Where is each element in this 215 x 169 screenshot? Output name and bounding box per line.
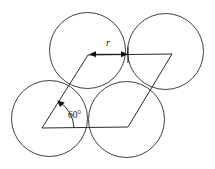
top-left-circle (50, 13, 126, 89)
angle-annotation: 60° (57, 101, 81, 129)
angle-arrowhead (57, 101, 65, 108)
figure-container: r 60° (0, 0, 215, 169)
radius-arrow-left (89, 51, 96, 57)
top-right-circle (128, 14, 204, 90)
radius-arrow-right (121, 51, 128, 57)
packing-diagram: r 60° (0, 0, 215, 169)
rhombic-unit-cell (42, 54, 172, 128)
bottom-right-circle (89, 82, 165, 158)
angle-label: 60° (68, 110, 82, 120)
circle-group (12, 13, 204, 158)
radius-label: r (106, 37, 110, 48)
radius-dimension: r (89, 37, 128, 63)
